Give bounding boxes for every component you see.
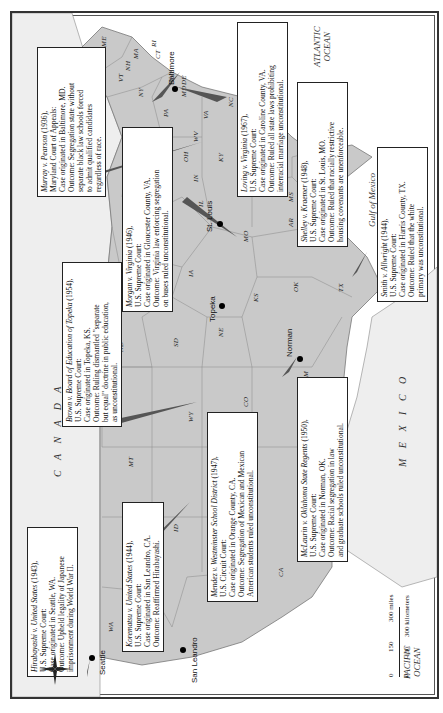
case-line: American students ruled unconstitutional… <box>246 417 255 597</box>
case-line: primary was unconstitutional. <box>416 152 425 297</box>
case-name: McLaurin v. Oklahoma State Regents <box>300 443 309 557</box>
city-marker-san-leandro <box>180 647 186 653</box>
city-marker-st-louis <box>217 221 223 227</box>
case-year: (1946), <box>125 226 134 248</box>
pointer-mclaurin <box>282 357 297 377</box>
case-line: but equal" doctrine in public education, <box>101 267 110 422</box>
case-court: U.S. Supreme Court: <box>134 507 143 647</box>
case-name: Morgan v. Virginia <box>125 250 134 307</box>
case-box-shelley: Shelley v. Kraemer (1948), U.S. Supreme … <box>297 82 348 247</box>
case-year: (1947), <box>210 456 219 478</box>
case-line: to admit qualified candidates <box>85 52 94 192</box>
case-box-brown: Brown v. Board of Education of Topeka (1… <box>62 262 122 427</box>
case-line: Outcome: Segregation of Mexican and Mexi… <box>237 417 246 597</box>
case-line: Case originated in Baltimore, MD. <box>58 52 67 192</box>
case-year: (1950), <box>300 419 309 441</box>
city-label-norman: Norman <box>285 329 294 357</box>
case-line: Case originated in Caroline County, VA. <box>258 27 267 192</box>
case-box-smith: Smith v. Allwright (1944), U.S. Supreme … <box>377 147 428 302</box>
case-line: Case originated in San Leandro, CA. <box>143 507 152 647</box>
case-court: U.S. Circuit Court: <box>219 417 228 597</box>
case-line: Case originated in Orange County, CA. <box>228 417 237 597</box>
scale-km-150: 150 <box>403 647 411 658</box>
case-line: Case originated in St. Louis, MO. <box>318 87 327 242</box>
case-box-mendez: Mendez v. Westminster School District (1… <box>207 412 258 602</box>
scale-km-300: 300 kilometers <box>403 595 411 637</box>
city-label-seattle: Seattle <box>98 650 107 675</box>
case-court: Maryland Court of Appeals: <box>49 52 58 192</box>
city-label-san-leandro: San Leandro <box>190 637 199 683</box>
pointer-smith <box>352 252 367 277</box>
case-line: housing covenants are unenforceable. <box>336 87 345 242</box>
case-year: (1943), <box>30 561 39 583</box>
case-line: Case originated in Norman, OK. <box>318 382 327 557</box>
case-line: on buses ruled unconstitutional. <box>161 132 170 307</box>
case-year: (1967), <box>240 114 249 136</box>
compass-rose-icon <box>37 651 73 687</box>
case-year: (1936), <box>40 111 49 133</box>
scale-miles-300: 300 miles <box>387 595 395 622</box>
case-line: Outcome: Virginia law enforcing segregat… <box>152 132 161 307</box>
case-year: (1948), <box>300 161 309 183</box>
city-label-topeka: Topeka <box>208 296 217 322</box>
scale-miles-150: 150 <box>387 642 395 653</box>
city-marker-norman <box>297 356 303 362</box>
map-canvas: C A N A D A M E X I C O ATLANTIC OCEAN P… <box>0 0 443 713</box>
case-name: Mendez v. Westminster School District <box>210 480 219 597</box>
case-box-mclaurin: McLaurin v. Oklahoma State Regents (1950… <box>297 377 348 562</box>
case-line: Case originated in Gloucester County, VA… <box>143 132 152 307</box>
case-line: interracial marriage unconstitutional. <box>276 27 285 192</box>
case-court: U.S. Supreme Court: <box>249 27 258 192</box>
city-marker-seattle <box>89 655 95 661</box>
case-box-korematsu: Korematsu v. United States (1944), U.S. … <box>122 502 164 652</box>
case-line: Case originated in Harris County, TX. <box>398 152 407 297</box>
scale-km-0: 0 <box>403 674 411 678</box>
case-line: as unconstitutional. <box>110 267 119 422</box>
map-frame: C A N A D A M E X I C O ATLANTIC OCEAN P… <box>10 11 439 699</box>
case-line: Outcome: Segregation state without <box>67 52 76 192</box>
case-line: Case originated in Topeka, KS. <box>83 267 92 422</box>
case-line: Outcome: Racial segregation in law <box>327 382 336 557</box>
case-year: (1944), <box>125 541 134 563</box>
pointer-loving <box>177 87 227 102</box>
scale-miles-0: 0 <box>387 674 395 678</box>
case-court: U.S. Supreme Court: <box>74 267 83 422</box>
case-court: U.S. Supreme Court: <box>389 152 398 297</box>
case-box-murray: Murray v. Pearson (1936), Maryland Court… <box>37 47 106 197</box>
case-name: Murray v. Pearson <box>40 135 49 192</box>
city-label-st-louis: St. Louis <box>205 201 214 232</box>
case-name: Brown v. Board of Education of Topeka <box>65 303 74 422</box>
case-box-morgan: Morgan v. Virginia (1946), U.S. Supreme … <box>122 127 173 312</box>
case-line: Outcome: Ruled all state laws prohibitin… <box>267 27 276 192</box>
case-name: Smith v. Allwright <box>380 243 389 297</box>
scale-bar: 0 150 300 miles 0 150 300 kilometers <box>387 587 417 677</box>
case-court: U.S. Supreme Court: <box>309 382 318 557</box>
case-line: regardless of race. <box>94 52 103 192</box>
case-line: Outcome: Ruled that the white <box>407 152 416 297</box>
case-line: separate black law schools forced <box>76 52 85 192</box>
case-court: U.S. Supreme Court: <box>309 87 318 242</box>
case-line: and graduate schools ruled unconstitutio… <box>336 382 345 557</box>
case-court: U.S. Supreme Court: <box>134 132 143 307</box>
case-year: (1954), <box>65 278 74 300</box>
case-year: (1944), <box>380 219 389 241</box>
case-line: Outcome: Ruling dismantled "separate <box>92 267 101 422</box>
case-name: Shelley v. Kraemer <box>300 185 309 242</box>
case-name: Loving v. Virginia <box>240 138 249 192</box>
pointer-hirabayashi <box>87 659 90 677</box>
city-marker-baltimore <box>172 86 178 92</box>
case-name: Korematsu v. United States <box>125 565 134 647</box>
city-marker-topeka <box>219 303 225 309</box>
city-label-baltimore: Baltimore <box>167 51 176 85</box>
case-box-loving: Loving v. Virginia (1967), U.S. Supreme … <box>237 22 288 197</box>
case-line: Outcome: Ruled that racially restrictive <box>327 87 336 242</box>
case-line: Outcome: Reaffirmed Hirabayashi. <box>152 507 161 647</box>
